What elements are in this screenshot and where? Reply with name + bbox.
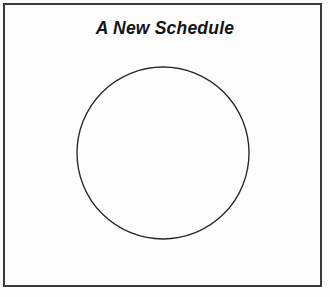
page-border [3,3,322,287]
worksheet-page: A New Schedule [0,0,330,297]
page-title: A New Schedule [0,18,330,39]
